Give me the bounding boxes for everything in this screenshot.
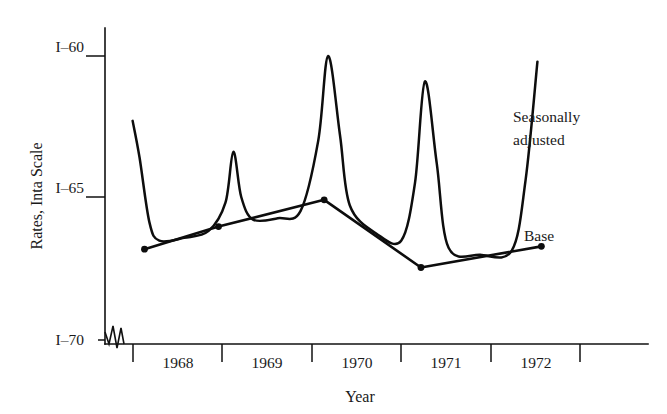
x-axis-title: Year [345,388,375,405]
axes-group [105,28,648,344]
annotation-base-label: Base [524,227,554,244]
base-point-marker [141,246,148,253]
y-tick-label-i65: I–65 [56,179,85,196]
y-axis-title: Rates, Inta Scale [28,142,45,249]
x-tick-label-1971: 1971 [431,354,462,371]
y-tick-group [86,56,105,340]
series-group [133,56,545,271]
y-tick-label-i70: I–70 [56,331,85,348]
x-tick-label-1969: 1969 [252,354,283,371]
x-tick-label-1970: 1970 [342,354,373,371]
chart-canvas: I–60 I–65 I–70 1968 1969 1970 1971 1972 … [0,0,667,414]
chart-figure: I–60 I–65 I–70 1968 1969 1970 1971 1972 … [0,0,667,414]
base-point-marker [321,196,328,203]
series-seasonal-adjusted-line [133,56,538,258]
x-tick-label-1968: 1968 [163,354,194,371]
y-tick-label-i60: I–60 [56,38,85,55]
base-point-marker [418,264,425,271]
annotation-seasonally-adjusted-line1: Seasonally [513,108,580,125]
x-tick-label-1972: 1972 [521,354,552,371]
annotation-seasonally-adjusted-line2: adjusted [513,131,565,148]
